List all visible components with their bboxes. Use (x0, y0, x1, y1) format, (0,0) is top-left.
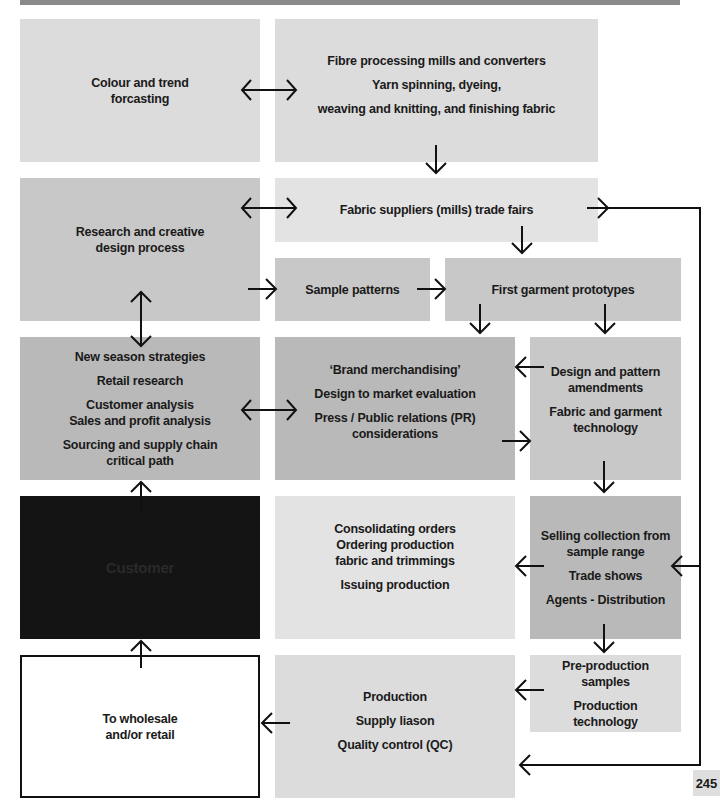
box-text: Production (574, 698, 638, 714)
box-text: ‘Brand merchandising’ (329, 362, 460, 378)
box-text: Selling collection from (541, 528, 670, 544)
box-production: Production Supply liason Quality control… (275, 655, 515, 798)
box-research-creative-design: Research and creative design process (20, 178, 260, 321)
box-brand-merchandising: ‘Brand merchandising’ Design to market e… (275, 337, 515, 480)
box-design-pattern-amendments: Design and pattern amendments Fabric and… (530, 337, 681, 480)
box-to-wholesale-retail: To wholesale and/or retail (20, 655, 260, 798)
box-text: Trade shows (569, 568, 643, 584)
box-text: Sample patterns (305, 282, 399, 298)
box-text: Fibre processing mills and converters (327, 53, 545, 69)
box-text: Design and pattern (551, 364, 661, 380)
box-text: Sourcing and supply chain (63, 437, 218, 453)
box-text: Customer (106, 560, 174, 576)
box-text: technology (573, 420, 638, 436)
box-fabric-suppliers: Fabric suppliers (mills) trade fairs (275, 178, 598, 242)
box-text: considerations (352, 426, 438, 442)
box-colour-trend-forecasting: Colour and trend forcasting (20, 19, 260, 162)
box-text: Consolidating orders (334, 521, 456, 537)
box-text: technology (573, 714, 638, 730)
box-text: Colour and trend (91, 75, 189, 91)
box-text: New season strategies (75, 349, 206, 365)
box-text: forcasting (111, 91, 169, 107)
box-pre-production-samples: Pre-production samples Production techno… (530, 655, 681, 732)
box-text: sample range (566, 544, 644, 560)
box-text: Ordering production (336, 537, 454, 553)
box-consolidating-orders: Consolidating orders Ordering production… (275, 496, 515, 639)
box-fibre-processing: Fibre processing mills and converters Ya… (275, 19, 598, 162)
box-text: Sales and profit analysis (69, 413, 211, 429)
box-text: Design to market evaluation (314, 386, 475, 402)
box-text: Supply liason (356, 713, 435, 729)
box-text: Retail research (97, 373, 184, 389)
box-text: To wholesale (102, 711, 177, 727)
box-sample-patterns: Sample patterns (275, 258, 430, 321)
box-text: Fabric suppliers (mills) trade fairs (340, 202, 534, 218)
box-text: and/or retail (106, 727, 175, 743)
box-text: fabric and trimmings (335, 553, 455, 569)
box-selling-collection: Selling collection from sample range Tra… (530, 496, 681, 639)
box-text: Press / Public relations (PR) (315, 410, 476, 426)
box-text: Issuing production (341, 577, 450, 593)
box-text: samples (581, 674, 630, 690)
box-new-season-strategies: New season strategies Retail research Cu… (20, 337, 260, 480)
box-text: Quality control (QC) (338, 737, 453, 753)
page-number: 245 (693, 770, 720, 796)
box-text: Pre-production (562, 658, 649, 674)
box-text: design process (96, 240, 185, 256)
box-text: Fabric and garment (549, 404, 661, 420)
top-rule (20, 0, 680, 5)
box-customer: Customer (20, 496, 260, 639)
box-text: Production (363, 689, 427, 705)
box-text: weaving and knitting, and finishing fabr… (318, 101, 555, 117)
box-text: Research and creative (76, 224, 205, 240)
box-text: critical path (106, 453, 174, 469)
box-text: First garment prototypes (491, 282, 634, 298)
box-first-garment-prototypes: First garment prototypes (445, 258, 681, 321)
box-text: Yarn spinning, dyeing, (372, 77, 501, 93)
box-text: Agents - Distribution (546, 592, 665, 608)
box-text: Customer analysis (86, 397, 194, 413)
box-text: amendments (568, 380, 643, 396)
